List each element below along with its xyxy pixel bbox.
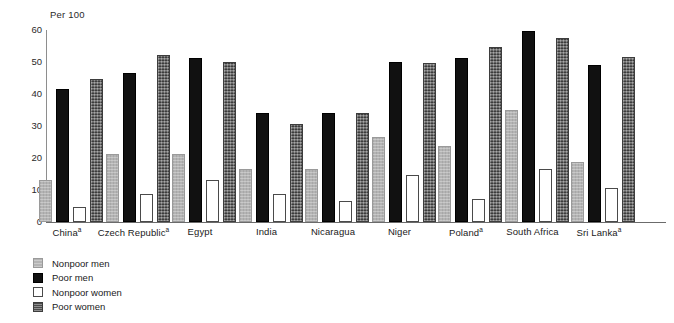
category-label: Polanda: [449, 226, 483, 238]
bar-nonpoor-women[interactable]: [206, 180, 219, 222]
bar-poor-women[interactable]: [90, 79, 103, 222]
legend-item[interactable]: Nonpoor men: [33, 256, 122, 271]
legend-item[interactable]: Poor women: [33, 300, 122, 315]
footnote-mark: a: [479, 226, 483, 233]
legend-swatch-poor-men: [33, 273, 43, 283]
category-label: Egypt: [188, 226, 213, 237]
bar-poor-men[interactable]: [455, 58, 468, 222]
bars: [505, 30, 569, 222]
bar-nonpoor-women[interactable]: [339, 201, 352, 222]
bar-nonpoor-women[interactable]: [273, 194, 286, 222]
footnote-mark: a: [618, 226, 622, 233]
legend-swatch-poor-women: [33, 302, 43, 312]
category-label: Nicaragua: [311, 226, 355, 237]
x-axis-line: [46, 222, 666, 223]
category-label: India: [256, 226, 277, 237]
bars: [239, 30, 303, 222]
bar-nonpoor-women[interactable]: [539, 169, 552, 222]
legend-swatch-nonpoor-women: [33, 287, 43, 297]
category-label: Niger: [388, 226, 411, 237]
bar-nonpoor-women[interactable]: [406, 175, 419, 222]
bar-nonpoor-men[interactable]: [39, 180, 52, 222]
bar-poor-men[interactable]: [123, 73, 136, 222]
legend: Nonpoor menPoor menNonpoor womenPoor wom…: [33, 256, 122, 314]
bar-poor-men[interactable]: [56, 89, 69, 222]
bars: [571, 30, 635, 222]
bar-poor-women[interactable]: [223, 62, 236, 222]
bar-nonpoor-men[interactable]: [305, 169, 318, 222]
bar-nonpoor-men[interactable]: [172, 154, 185, 222]
bars: [39, 30, 103, 222]
category-label: Sri Lankaa: [577, 226, 622, 238]
bar-poor-men[interactable]: [588, 65, 601, 222]
bar-nonpoor-men[interactable]: [571, 162, 584, 222]
legend-swatch-nonpoor-men: [33, 258, 43, 268]
bar-nonpoor-men[interactable]: [239, 169, 252, 222]
category-label: Czech Republica: [98, 226, 170, 238]
y-axis-title: Per 100: [50, 9, 85, 20]
bar-poor-men[interactable]: [389, 62, 402, 222]
bar-nonpoor-men[interactable]: [106, 154, 119, 222]
legend-label: Poor women: [52, 302, 105, 312]
bar-poor-women[interactable]: [489, 47, 502, 222]
bar-poor-women[interactable]: [423, 63, 436, 222]
bar-nonpoor-men[interactable]: [438, 146, 451, 222]
legend-label: Nonpoor men: [52, 259, 110, 269]
bar-poor-men[interactable]: [522, 31, 535, 222]
legend-label: Poor men: [52, 273, 93, 283]
legend-label: Nonpoor women: [52, 288, 122, 298]
category-label: South Africa: [506, 226, 558, 237]
bar-poor-women[interactable]: [622, 57, 635, 222]
bars: [305, 30, 369, 222]
bar-poor-men[interactable]: [256, 113, 269, 222]
bar-poor-women[interactable]: [556, 38, 569, 222]
footnote-mark: a: [166, 226, 170, 233]
category-label: Chinaa: [52, 226, 81, 238]
bar-poor-men[interactable]: [322, 113, 335, 222]
bar-nonpoor-women[interactable]: [472, 199, 485, 222]
bars: [106, 30, 170, 222]
bar-poor-women[interactable]: [157, 55, 170, 222]
bar-poor-women[interactable]: [290, 124, 303, 222]
bars: [438, 30, 502, 222]
legend-item[interactable]: Poor men: [33, 271, 122, 286]
bars: [172, 30, 236, 222]
footnote-mark: a: [78, 226, 82, 233]
bar-poor-men[interactable]: [189, 58, 202, 222]
bar-nonpoor-men[interactable]: [505, 110, 518, 222]
bar-nonpoor-women[interactable]: [73, 207, 86, 222]
bar-chart: Per 100 0102030405060 ChinaaCzech Republ…: [0, 0, 674, 323]
bar-nonpoor-men[interactable]: [372, 137, 385, 222]
bar-poor-women[interactable]: [356, 113, 369, 222]
bar-nonpoor-women[interactable]: [605, 188, 618, 222]
bar-nonpoor-women[interactable]: [140, 194, 153, 222]
legend-item[interactable]: Nonpoor women: [33, 285, 122, 300]
bars: [372, 30, 436, 222]
